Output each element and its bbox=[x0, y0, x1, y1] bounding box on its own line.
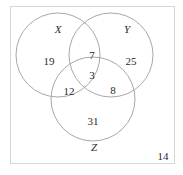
set-label-z: Z bbox=[91, 142, 97, 153]
region-y-and-z: 8 bbox=[110, 85, 116, 96]
region-x-only: 19 bbox=[44, 56, 55, 67]
region-x-and-y: 7 bbox=[89, 50, 95, 61]
region-y-only: 25 bbox=[126, 56, 137, 67]
region-x-and-z: 12 bbox=[64, 86, 75, 97]
set-label-x: X bbox=[55, 24, 62, 35]
region-outside: 14 bbox=[158, 151, 169, 162]
region-x-y-z: 3 bbox=[89, 70, 95, 81]
region-z-only: 31 bbox=[88, 116, 99, 127]
set-label-y: Y bbox=[124, 24, 130, 35]
